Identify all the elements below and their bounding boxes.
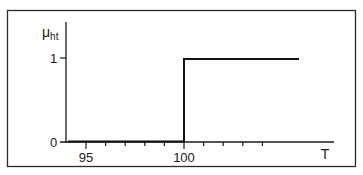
membership-chart: μht 1 0 95 100 T: [0, 0, 363, 175]
x-tick-label-95: 95: [79, 150, 93, 165]
step-function-line: [68, 59, 299, 142]
x-ticks: [86, 142, 262, 149]
chart-frame: [8, 11, 356, 167]
y-tick-label-0: 0: [50, 135, 57, 150]
y-tick-label-1: 1: [50, 51, 57, 66]
x-tick-label-100: 100: [173, 150, 195, 165]
y-axis-label: μht: [42, 24, 59, 42]
x-axis-label: T: [321, 146, 330, 162]
